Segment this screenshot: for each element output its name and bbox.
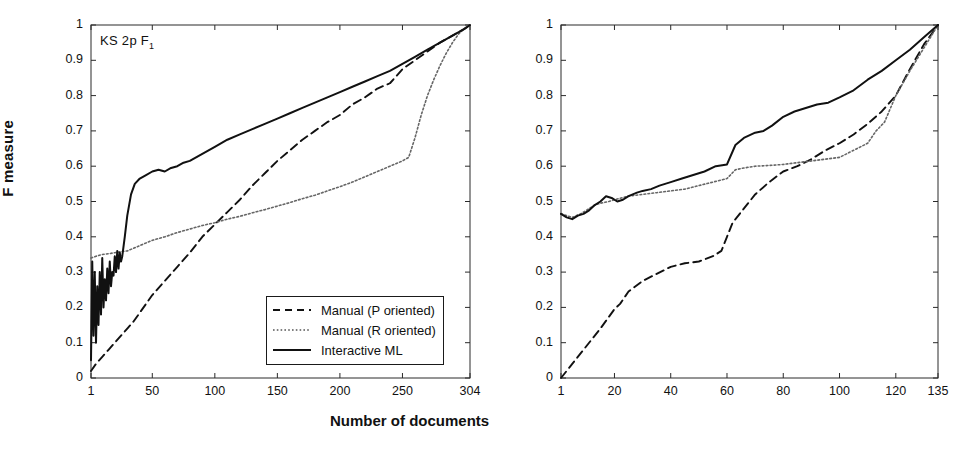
x-tick-label: 200 [329, 384, 350, 398]
y-tick-label: 0.3 [45, 264, 83, 278]
plot-panel-right: AK 2p F1 Manual (P oriented) Manual (R o… [470, 0, 968, 454]
y-tick-label: 0.4 [45, 229, 83, 243]
x-tick-label: 135 [928, 384, 949, 398]
x-tick-label: 120 [885, 384, 906, 398]
legend-item: Interactive ML [272, 340, 436, 360]
legend-key-dotted [272, 324, 312, 336]
x-tick-label: 1 [558, 384, 565, 398]
y-tick-label: 0.1 [45, 335, 83, 349]
y-tick-label: 0.4 [515, 229, 553, 243]
x-tick-label: 20 [608, 384, 622, 398]
figure-root: F measure Number of documents KS 2p F1 M… [0, 0, 968, 454]
y-tick-label: 0.7 [45, 123, 83, 137]
y-tick-label: 0 [515, 370, 553, 384]
x-tick-label: 1 [88, 384, 95, 398]
x-tick-label: 80 [776, 384, 790, 398]
y-tick-label: 1 [515, 17, 553, 31]
y-tick-label: 0.3 [515, 264, 553, 278]
y-tick-label: 0 [45, 370, 83, 384]
legend-label: Manual (R oriented) [321, 323, 436, 338]
y-tick-label: 0.1 [515, 335, 553, 349]
y-tick-label: 0.5 [45, 194, 83, 208]
legend-left: Manual (P oriented) Manual (R oriented) … [266, 296, 444, 365]
x-tick-label: 100 [829, 384, 850, 398]
plot-canvas-left [0, 0, 500, 454]
y-tick-label: 0.9 [515, 52, 553, 66]
y-tick-label: 0.7 [515, 123, 553, 137]
y-tick-label: 0.2 [515, 299, 553, 313]
y-tick-label: 0.6 [515, 158, 553, 172]
legend-label: Interactive ML [321, 343, 403, 358]
x-tick-label: 150 [267, 384, 288, 398]
series-line-dotted [91, 25, 470, 258]
x-tick-label: 50 [145, 384, 159, 398]
plot-panel-left: KS 2p F1 Manual (P oriented) Manual (R o… [0, 0, 500, 454]
series-line-dotted [561, 25, 938, 217]
y-tick-label: 0.8 [45, 88, 83, 102]
y-tick-label: 0.9 [45, 52, 83, 66]
x-tick-label: 100 [204, 384, 225, 398]
x-tick-label: 40 [664, 384, 678, 398]
y-tick-label: 1 [45, 17, 83, 31]
series-line-solid [561, 25, 938, 219]
x-tick-label: 250 [392, 384, 413, 398]
y-tick-label: 0.6 [45, 158, 83, 172]
legend-item: Manual (R oriented) [272, 320, 436, 340]
y-tick-label: 0.5 [515, 194, 553, 208]
x-tick-label: 60 [720, 384, 734, 398]
y-tick-label: 0.2 [45, 299, 83, 313]
legend-key-solid [272, 344, 312, 356]
y-tick-label: 0.8 [515, 88, 553, 102]
legend-label: Manual (P oriented) [321, 303, 435, 318]
legend-item: Manual (P oriented) [272, 300, 436, 320]
legend-key-dashed [272, 304, 312, 316]
